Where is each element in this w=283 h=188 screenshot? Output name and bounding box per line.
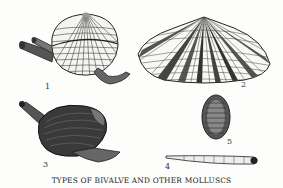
figure-2-number: 2 [241, 80, 246, 89]
figure-4-number: 4 [165, 162, 170, 171]
figure-3-number: 3 [43, 160, 48, 169]
figure-5-chiton-drawing [200, 93, 232, 141]
figure-1-number: 1 [45, 82, 50, 91]
figure-5-number: 5 [227, 137, 232, 146]
plate-caption: TYPES OF BIVALVE AND OTHER MOLLUSCS [0, 176, 283, 185]
figure-2-bivalve-drawing [134, 14, 274, 86]
illustration-plate: 1 2 3 [0, 0, 283, 188]
figure-4-tusk-shell-drawing [164, 153, 260, 167]
figure-3-clam-drawing [14, 100, 124, 168]
figure-1-bivalve-drawing [14, 8, 136, 90]
